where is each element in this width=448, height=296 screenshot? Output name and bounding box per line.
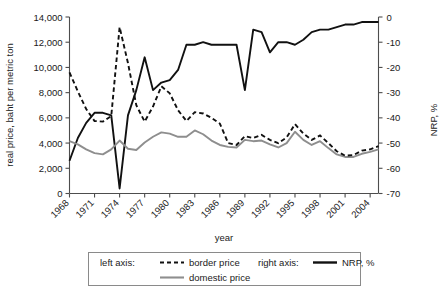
legend-right-axis-label: right axis: [258, 257, 299, 268]
right-tick-label-7: -70 [387, 188, 401, 199]
x-axis-title: year [215, 232, 233, 243]
chart-figure: 02,0004,0006,0008,00010,00012,00014,000 … [0, 0, 448, 296]
right-tick-label-6: -60 [387, 163, 401, 174]
right-tick-label-5: -50 [387, 138, 401, 149]
right-tick-label-4: -40 [387, 112, 401, 123]
left-axis-title: real price, baht per metric ton [4, 43, 15, 167]
left-tick-label-2: 4,000 [39, 138, 63, 149]
right-tick-label-2: -20 [387, 62, 401, 73]
legend-item-nrp: NRP, % [342, 257, 375, 268]
left-tick-label-3: 6,000 [39, 112, 63, 123]
legend-item-border-price: border price [189, 257, 240, 268]
price-nrp-line-chart: 02,0004,0006,0008,00010,00012,00014,000 … [0, 0, 448, 296]
right-axis-title: NRP, % [428, 103, 439, 136]
legend-item-domestic-price: domestic price [189, 272, 250, 283]
right-tick-label-3: -30 [387, 87, 401, 98]
right-tick-label-0: 0 [387, 12, 392, 23]
legend-left-axis-label: left axis: [100, 257, 135, 268]
left-tick-label-4: 8,000 [39, 87, 63, 98]
right-tick-label-1: -10 [387, 37, 401, 48]
chart-legend: left axis: border price domestic price r… [89, 253, 376, 286]
left-tick-label-7: 14,000 [33, 12, 62, 23]
left-tick-label-1: 2,000 [39, 163, 63, 174]
left-tick-label-5: 10,000 [33, 62, 62, 73]
left-tick-label-6: 12,000 [33, 37, 62, 48]
